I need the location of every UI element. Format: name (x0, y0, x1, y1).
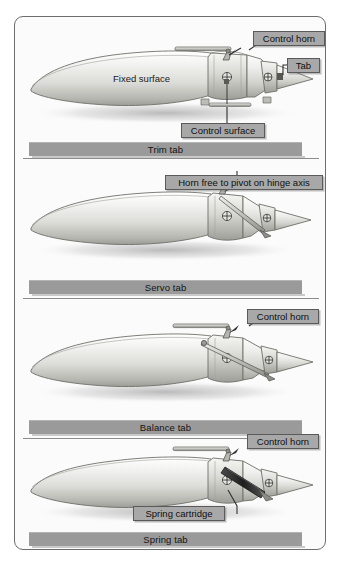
panel-spring-tab: Control horn Spring cartridge Spring tab (15, 440, 326, 550)
panel-divider-2 (23, 298, 319, 299)
label-control-horn-spring: Control horn (247, 434, 319, 449)
label-horn-pivot-note: Horn free to pivot on hinge axis (165, 175, 323, 190)
caption-shadow (32, 294, 305, 296)
label-control-horn: Control horn (253, 31, 325, 46)
caption-servo-tab: Servo tab (29, 280, 302, 294)
diagram-frame: Fixed surface Control horn Tab Control s… (14, 16, 326, 550)
caption-balance-tab: Balance tab (29, 420, 302, 434)
label-spring-cartridge: Spring cartridge (133, 506, 225, 521)
label-tab: Tab (287, 58, 320, 73)
caption-shadow (32, 546, 305, 548)
panel-trim-tab: Fixed surface Control horn Tab Control s… (15, 17, 326, 160)
panel-balance-tab: Control horn Balance tab (15, 300, 326, 440)
panel-servo-tab: Horn free to pivot on hinge axis Servo t… (15, 160, 326, 300)
caption-trim-tab: Trim tab (29, 142, 302, 156)
label-control-horn-balance: Control horn (247, 309, 319, 324)
tab-types-diagram: Fixed surface Control horn Tab Control s… (0, 0, 341, 565)
label-control-surface: Control surface (181, 123, 265, 138)
fixed-surface-text: Fixed surface (113, 73, 170, 84)
panel-divider-1 (23, 158, 319, 159)
caption-spring-tab: Spring tab (29, 532, 302, 546)
